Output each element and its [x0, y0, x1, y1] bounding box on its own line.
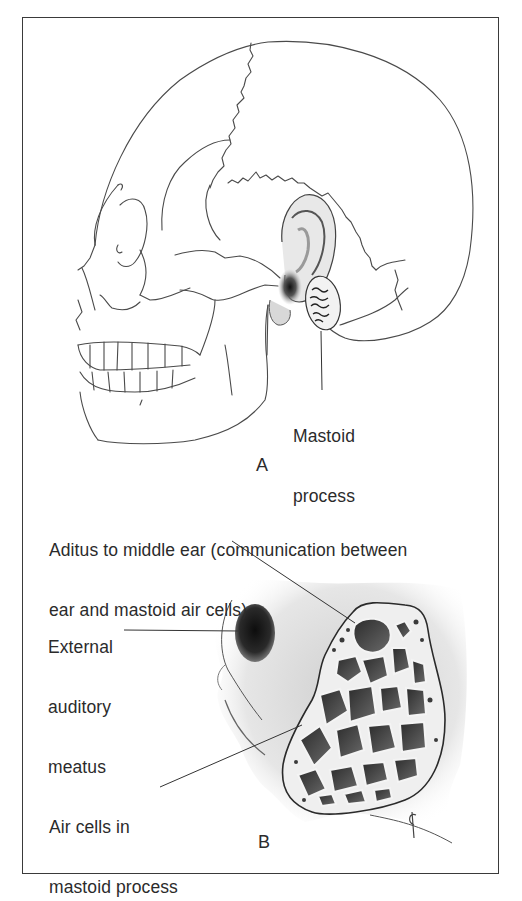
panel-letter-b: B	[258, 832, 270, 853]
label-line: External	[48, 637, 113, 657]
leader-line-mastoid	[321, 331, 322, 390]
label-line: meatus	[48, 757, 113, 777]
skull-lateral-drawing	[76, 41, 473, 443]
label-line: Aditus to middle ear (communication betw…	[49, 540, 407, 560]
label-air-cells-in-mastoid-process: Air cells in mastoid process	[49, 777, 178, 901]
label-line: mastoid process	[49, 877, 178, 897]
label-line: auditory	[48, 697, 113, 717]
panel-letter-a: A	[256, 455, 268, 476]
label-line: Mastoid	[293, 426, 355, 446]
label-external-auditory-meatus: External auditory meatus	[48, 597, 113, 797]
label-line: Air cells in	[49, 817, 178, 837]
